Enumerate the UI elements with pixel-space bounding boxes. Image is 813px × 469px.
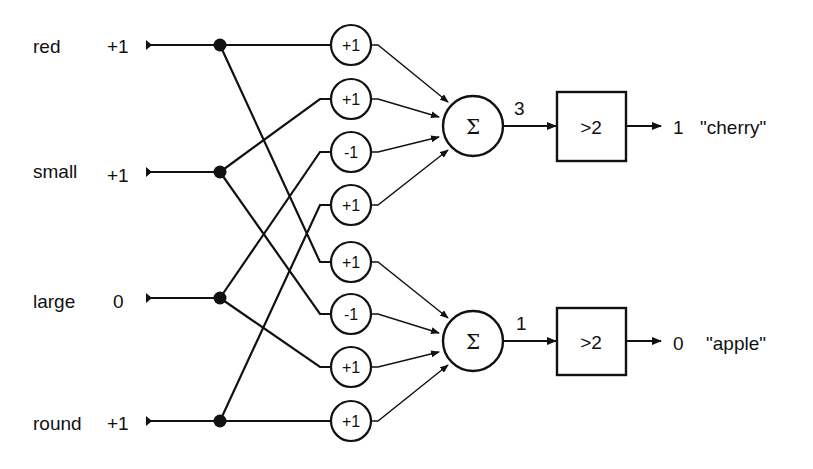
sum-value-bottom: 1: [516, 313, 527, 334]
threshold-box-top: >2: [557, 92, 626, 161]
svg-text:+1: +1: [342, 413, 360, 430]
input-label-large: large: [33, 291, 75, 312]
threshold-box-bottom: >2: [557, 308, 626, 375]
weight-to-sum-arrows-top: [371, 45, 448, 205]
weight-node-4: +1: [331, 185, 371, 225]
svg-text:-1: -1: [344, 306, 358, 323]
input-terminals: [146, 40, 152, 426]
input-label-round: round: [33, 413, 82, 434]
input-value-round: +1: [107, 413, 129, 434]
input-label-small: small: [33, 161, 77, 182]
svg-text:+1: +1: [342, 91, 360, 108]
input-value-red: +1: [107, 36, 129, 57]
svg-text:>2: >2: [580, 117, 602, 138]
sigma-icon: Σ: [466, 115, 480, 139]
weight-node-8: +1: [331, 401, 371, 441]
sum-value-top: 3: [514, 98, 525, 119]
weight-node-7: +1: [331, 347, 371, 387]
perceptron-diagram: red +1 small +1 large 0 round +1: [0, 0, 813, 469]
svg-text:>2: >2: [580, 332, 602, 353]
input-wires: [150, 45, 220, 421]
svg-text:+1: +1: [342, 197, 360, 214]
input-value-small: +1: [107, 165, 129, 186]
weight-node-2: +1: [331, 79, 371, 119]
sigma-icon: Σ: [466, 330, 480, 354]
svg-text:+1: +1: [342, 359, 360, 376]
svg-text:+1: +1: [342, 37, 360, 54]
svg-text:-1: -1: [344, 144, 358, 161]
input-value-large: 0: [113, 291, 124, 312]
output-value-bottom: 0: [673, 333, 684, 354]
sum-node-top: Σ: [443, 96, 503, 156]
svg-text:+1: +1: [342, 254, 360, 271]
sum-node-bottom: Σ: [443, 311, 503, 371]
output-class-bottom: "apple": [706, 333, 766, 354]
weight-to-sum-arrows-bottom: [371, 262, 448, 421]
fanout-wires: [220, 45, 330, 421]
input-label-red: red: [33, 36, 60, 57]
junction-dots: [214, 39, 227, 428]
weight-node-1: +1: [331, 25, 371, 65]
output-class-top: "cherry": [700, 117, 766, 138]
weight-node-3: -1: [331, 132, 371, 172]
weight-node-5: +1: [331, 242, 371, 282]
weight-node-6: -1: [331, 294, 371, 334]
output-value-top: 1: [673, 117, 684, 138]
